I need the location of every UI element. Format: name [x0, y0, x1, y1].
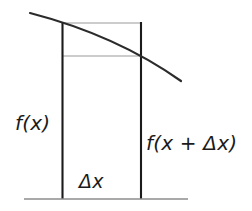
label-f-of-x-plus-delta-x: f(x + Δx)	[146, 133, 237, 153]
figure-canvas: f(x) f(x + Δx) Δx	[0, 0, 252, 211]
label-f-of-x: f(x)	[15, 113, 50, 133]
label-delta-x: Δx	[79, 172, 104, 191]
calculus-diagram	[0, 0, 252, 211]
